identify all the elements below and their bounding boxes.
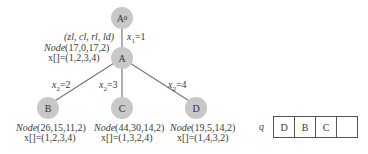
node-d: D [185, 97, 207, 119]
edge-a-b-label: x2=2 [52, 80, 71, 94]
node-a-params: (zl, cl, rl, ld) [64, 32, 114, 42]
edge-a0-a-label: x1=1 [127, 32, 146, 46]
node-c-x-array: x[]=(1,3,2,4) [101, 133, 152, 143]
node-c: C [111, 97, 133, 119]
root-node-a0: A0 [111, 7, 133, 29]
queue-cell: D [274, 117, 295, 137]
node-a: A [111, 47, 133, 69]
edge-a-c-label: x2=3 [99, 80, 118, 94]
queue-label: q [259, 122, 264, 132]
queue-cell: B [295, 117, 316, 137]
node-d-x-array: x[]=(1,4,3,2) [177, 133, 228, 143]
queue-cell [337, 117, 357, 137]
queue: D B C [273, 116, 358, 138]
node-a-x-array: x[]=(1,2,3,4) [48, 53, 99, 63]
node-b-x-array: x[]=(1,2,3,4) [24, 133, 75, 143]
queue-cell: C [316, 117, 337, 137]
node-b: B [37, 97, 59, 119]
edge-a-d-label: x2=4 [168, 80, 187, 94]
